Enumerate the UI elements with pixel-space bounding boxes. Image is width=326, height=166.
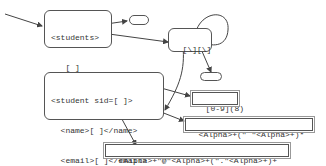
sid-pattern-box: [0-9](8): [192, 92, 238, 105]
name-pattern-box: <Alpha>+(" "<Alpha>+)*: [185, 118, 313, 131]
student-open-tag: <student sid=[ ]>: [51, 96, 157, 106]
name-pattern-label: <Alpha>+(" "<Alpha>+)*: [199, 130, 305, 139]
student-element-box: <student sid=[ ]> <name>[ ]</name> <emai…: [44, 72, 164, 120]
empty-state-pill-bottom: [200, 72, 222, 81]
sid-pattern-label: [0-9](8): [206, 104, 244, 113]
email-pattern-label: <Alpha>+"@"<Alpha>+("."<Alpha>+)+: [119, 156, 277, 165]
regex-group-box: [\][\]: [168, 28, 212, 52]
empty-state-pill-top: [129, 15, 149, 25]
students-element-box: <students> [ ] </sudents>: [44, 10, 112, 48]
students-open-tag: <students>: [51, 33, 105, 43]
email-pattern-box: <Alpha>+"@"<Alpha>+("."<Alpha>+)+: [105, 144, 289, 157]
student-name-line: <name>[ ]</name>: [51, 126, 157, 136]
regex-group-label: [\][\]: [183, 45, 212, 54]
